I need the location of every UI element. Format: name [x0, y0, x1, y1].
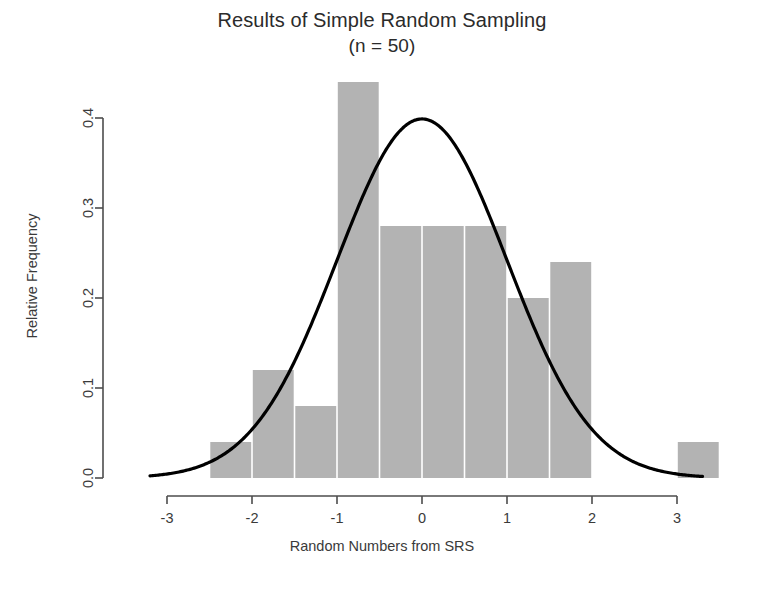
figure-canvas: Results of Simple Random Sampling (n = 5… — [0, 0, 764, 591]
histogram-bar — [423, 226, 464, 478]
x-tick-label: 3 — [673, 510, 681, 526]
y-tick-label: 0.3 — [80, 198, 96, 218]
histogram-bar — [465, 226, 506, 478]
histogram-plot: 0.00.10.20.30.4 -3-2-10123 — [0, 0, 764, 591]
y-tick-label: 0.2 — [80, 288, 96, 308]
x-tick-label: -1 — [331, 510, 344, 526]
x-axis: -3-2-10123 — [161, 496, 681, 526]
y-tick-label: 0.1 — [80, 378, 96, 398]
x-tick-label: 1 — [503, 510, 511, 526]
histogram-bar — [550, 262, 591, 478]
x-tick-label: -2 — [246, 510, 259, 526]
histogram-bar — [380, 226, 421, 478]
histogram-bar — [295, 406, 336, 478]
histogram-bars — [210, 82, 718, 478]
x-tick-label: -3 — [161, 510, 174, 526]
x-tick-label: 2 — [588, 510, 596, 526]
x-axis-label: Random Numbers from SRS — [0, 538, 764, 554]
histogram-bar — [338, 82, 379, 478]
histogram-bar — [678, 442, 719, 478]
histogram-bar — [508, 298, 549, 478]
y-axis-label: Relative Frequency — [24, 206, 40, 346]
y-tick-label: 0.0 — [80, 468, 96, 488]
y-axis: 0.00.10.20.30.4 — [80, 108, 103, 488]
x-tick-label: 0 — [418, 510, 426, 526]
y-tick-label: 0.4 — [80, 108, 96, 128]
histogram-bar — [253, 370, 294, 478]
